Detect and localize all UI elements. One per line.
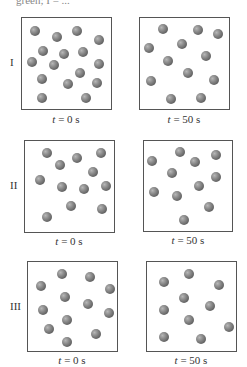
- time-value: = 50 s: [175, 234, 205, 246]
- molecule-sphere-icon: [55, 160, 65, 170]
- molecule-sphere-icon: [175, 147, 185, 157]
- molecule-sphere-icon: [52, 32, 62, 42]
- molecule-sphere-icon: [149, 187, 159, 197]
- molecule-sphere-icon: [158, 24, 168, 34]
- molecule-sphere-icon: [72, 153, 82, 163]
- molecule-sphere-icon: [179, 215, 189, 225]
- molecule-sphere-icon: [214, 280, 224, 290]
- molecule-sphere-icon: [224, 322, 234, 332]
- molecule-sphere-icon: [92, 78, 102, 88]
- molecule-sphere-icon: [147, 156, 157, 166]
- molecule-sphere-icon: [66, 201, 76, 211]
- molecule-sphere-icon: [167, 168, 177, 178]
- molecule-sphere-icon: [38, 46, 48, 56]
- molecule-sphere-icon: [59, 49, 69, 59]
- molecule-sphere-icon: [42, 148, 52, 158]
- molecule-sphere-icon: [72, 26, 82, 36]
- molecule-sphere-icon: [194, 181, 204, 191]
- molecule-sphere-icon: [27, 57, 37, 67]
- molecule-sphere-icon: [184, 269, 194, 279]
- time-value: = 50 s: [178, 354, 208, 366]
- molecule-sphere-icon: [190, 157, 200, 167]
- molecule-sphere-icon: [204, 202, 214, 212]
- molecule-sphere-icon: [159, 332, 169, 342]
- caption-iii-t50: t = 50 s: [146, 354, 236, 366]
- molecule-sphere-icon: [94, 35, 104, 45]
- molecule-sphere-icon: [144, 43, 154, 53]
- molecule-sphere-icon: [159, 305, 169, 315]
- molecule-sphere-icon: [97, 204, 107, 214]
- time-value: = 0 s: [55, 113, 79, 125]
- molecule-sphere-icon: [166, 94, 176, 104]
- row-label-i: I: [10, 56, 14, 68]
- molecule-sphere-icon: [37, 74, 47, 84]
- molecule-sphere-icon: [209, 75, 219, 85]
- molecule-sphere-icon: [91, 329, 101, 339]
- molecule-sphere-icon: [57, 182, 67, 192]
- molecule-sphere-icon: [213, 29, 223, 39]
- molecule-sphere-icon: [146, 76, 156, 86]
- molecule-sphere-icon: [163, 56, 173, 66]
- molecule-sphere-icon: [81, 93, 91, 103]
- caption-ii-t0: t = 0 s: [24, 235, 114, 247]
- molecule-sphere-icon: [159, 277, 169, 287]
- molecule-sphere-icon: [62, 337, 72, 347]
- molecule-sphere-icon: [105, 284, 115, 294]
- molecule-sphere-icon: [96, 148, 106, 158]
- molecule-sphere-icon: [85, 272, 95, 282]
- molecule-sphere-icon: [30, 26, 40, 36]
- molecule-sphere-icon: [88, 167, 98, 177]
- molecule-sphere-icon: [193, 25, 203, 35]
- molecule-sphere-icon: [36, 281, 46, 291]
- molecule-sphere-icon: [196, 93, 206, 103]
- molecule-sphere-icon: [211, 150, 221, 160]
- molecule-sphere-icon: [75, 68, 85, 78]
- caption-i-t0: t = 0 s: [21, 113, 111, 125]
- caption-ii-t50: t = 50 s: [143, 234, 233, 246]
- molecule-sphere-icon: [60, 292, 70, 302]
- molecule-sphere-icon: [42, 212, 52, 222]
- caption-i-t50: t = 50 s: [139, 113, 229, 125]
- molecule-sphere-icon: [196, 334, 206, 344]
- time-value: = 0 s: [61, 354, 85, 366]
- molecule-sphere-icon: [172, 191, 182, 201]
- molecule-sphere-icon: [49, 60, 59, 70]
- molecule-sphere-icon: [101, 181, 111, 191]
- molecule-sphere-icon: [104, 308, 114, 318]
- molecule-sphere-icon: [94, 59, 104, 69]
- molecule-sphere-icon: [177, 39, 187, 49]
- time-value: = 0 s: [58, 235, 82, 247]
- row-label-ii: II: [10, 179, 17, 191]
- molecule-sphere-icon: [57, 269, 67, 279]
- molecule-sphere-icon: [201, 51, 211, 61]
- molecule-sphere-icon: [78, 47, 88, 57]
- caption-iii-t0: t = 0 s: [27, 354, 117, 366]
- molecule-sphere-icon: [83, 299, 93, 309]
- row-label-iii: III: [10, 300, 21, 312]
- molecule-sphere-icon: [62, 315, 72, 325]
- molecule-sphere-icon: [183, 68, 193, 78]
- molecule-sphere-icon: [184, 315, 194, 325]
- time-value: = 50 s: [171, 113, 201, 125]
- molecule-sphere-icon: [79, 184, 89, 194]
- molecule-sphere-icon: [179, 293, 189, 303]
- molecule-sphere-icon: [38, 305, 48, 315]
- header-text-clipped: green; I = ...: [16, 0, 70, 6]
- molecule-sphere-icon: [37, 93, 47, 103]
- molecule-sphere-icon: [35, 175, 45, 185]
- molecule-sphere-icon: [63, 79, 73, 89]
- molecule-sphere-icon: [211, 172, 221, 182]
- molecule-sphere-icon: [44, 324, 54, 334]
- molecule-sphere-icon: [205, 301, 215, 311]
